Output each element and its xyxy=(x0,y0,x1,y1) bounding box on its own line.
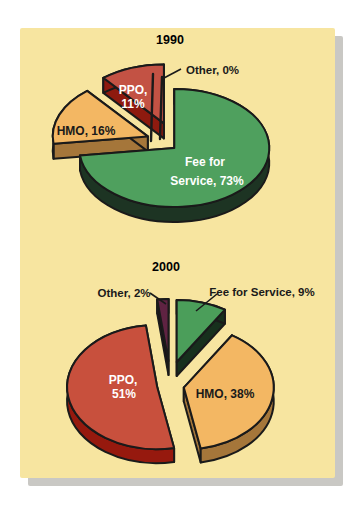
slice-label-hmo-1990: HMO, 16% xyxy=(57,124,116,138)
slice-label-ppo-2000-line1: PPO, xyxy=(109,373,138,387)
slice-label-other-2000: Other, 2% xyxy=(97,287,150,299)
pie-chart-2000: 2000 Other, 2% Fee for Service, 9% PPO, … xyxy=(67,260,315,463)
other-leader-line-1990 xyxy=(164,69,181,78)
slice-label-ppo-2000-line2: 51% xyxy=(112,387,136,401)
pie-chart-1990: 1990 Other, 0% PPO, 11% HMO, 16% Fee for… xyxy=(53,33,270,222)
pie-slice-other xyxy=(157,299,168,361)
charts-canvas: 1990 Other, 0% PPO, 11% HMO, 16% Fee for… xyxy=(0,0,359,506)
pie-2000-slices xyxy=(67,299,274,463)
slice-label-ffs-2000: Fee for Service, 9% xyxy=(209,286,314,298)
chart-title-2000: 2000 xyxy=(152,260,180,274)
slice-label-hmo-2000: HMO, 38% xyxy=(196,387,255,401)
chart-title-1990: 1990 xyxy=(156,33,184,47)
slice-label-ppo-1990-line2: 11% xyxy=(121,97,145,111)
slice-label-other-1990: Other, 0% xyxy=(186,64,239,76)
slice-label-ppo-1990-line1: PPO, xyxy=(119,83,148,97)
slice-label-ffs-1990-line2: Service, 73% xyxy=(170,174,244,188)
slice-label-ffs-1990-line1: Fee for xyxy=(185,155,225,169)
scanned-page: 1990 Other, 0% PPO, 11% HMO, 16% Fee for… xyxy=(0,0,359,506)
